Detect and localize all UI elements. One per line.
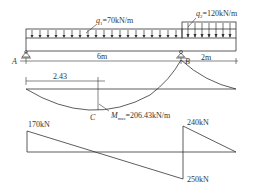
- span-ab-label: 6m: [97, 52, 108, 61]
- support-a-pin-icon: [21, 51, 31, 58]
- q1-label: q1=70kN/m: [96, 16, 134, 26]
- support-a-label: A: [11, 57, 17, 66]
- q1-load-block: [26, 29, 236, 51]
- shear-vb-left-label: 250kN: [187, 175, 209, 184]
- q2-load-arrows: [187, 23, 232, 38]
- beam-diagram: q1=70kN/m q2=120kN/m A B 6m 2m 2.43 C Mm…: [0, 0, 254, 196]
- shear-force-diagram: [27, 126, 236, 179]
- bending-moment-diagram: [26, 60, 236, 110]
- mmax-position-dimension: [26, 77, 105, 110]
- shear-vb-right-label: 240kN: [187, 118, 209, 127]
- q1-leader: [86, 24, 97, 33]
- q1-load-arrows: [31, 30, 178, 38]
- overhang-label: 2m: [201, 53, 212, 62]
- point-c-label: C: [90, 113, 96, 122]
- shear-va-label: 170kN: [28, 120, 50, 129]
- mmax-label: Mmax=206.43kN/m: [110, 111, 171, 121]
- q2-label: q2=120kN/m: [196, 9, 238, 19]
- mmax-position-label: 2.43: [53, 72, 67, 81]
